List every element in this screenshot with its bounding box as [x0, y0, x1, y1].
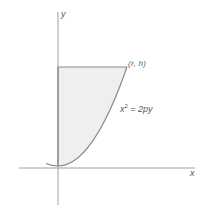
point-label-r-h: (r, h): [128, 60, 146, 68]
x-axis-label: x: [190, 169, 195, 178]
equation-label: x2 = 2py: [120, 103, 153, 114]
parabola-region-diagram: [0, 0, 206, 211]
equation-rhs: = 2py: [128, 104, 153, 114]
y-axis-label: y: [61, 10, 66, 19]
shaded-region: [58, 67, 127, 166]
